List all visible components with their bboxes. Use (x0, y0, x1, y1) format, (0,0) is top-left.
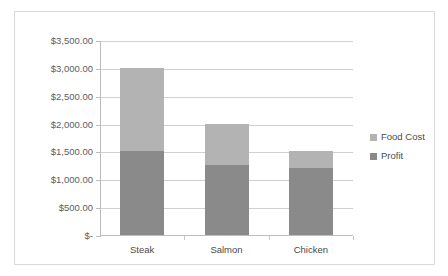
bar-segment-food-cost (289, 151, 333, 168)
bar-group (289, 151, 333, 235)
y-axis-tick (96, 180, 101, 181)
y-axis-tick-label: $- (85, 231, 93, 241)
bar-group (205, 124, 249, 235)
chart-legend: Food CostProfit (370, 132, 432, 170)
bar-segment-profit (289, 168, 333, 235)
legend-label: Food Cost (381, 132, 425, 142)
x-axis-tick (184, 236, 185, 240)
bar-segment-food-cost (120, 68, 164, 152)
y-axis-line (100, 41, 101, 236)
legend-item: Profit (370, 151, 432, 161)
y-axis-tick-label: $1,000.00 (51, 175, 93, 185)
bar-group (120, 68, 164, 235)
y-axis-tick-label: $500.00 (59, 203, 93, 213)
y-axis-tick-label: $3,500.00 (51, 36, 93, 46)
y-axis-tick (96, 125, 101, 126)
legend-item: Food Cost (370, 132, 432, 142)
legend-swatch-icon (370, 153, 377, 160)
y-axis-tick (96, 97, 101, 98)
bar-segment-food-cost (205, 124, 249, 166)
y-axis-tick-label: $1,500.00 (51, 147, 93, 157)
y-axis-tick-label: $2,500.00 (51, 92, 93, 102)
x-axis-category-label: Salmon (184, 244, 268, 256)
x-axis-category-label: Steak (100, 244, 184, 256)
x-axis-category-label: Chicken (269, 244, 353, 256)
y-axis-tick (96, 152, 101, 153)
y-axis-tick (96, 69, 101, 70)
gridline (100, 41, 353, 42)
y-axis-labels: $3,500.00$3,000.00$2,500.00$2,000.00$1,5… (15, 41, 93, 236)
y-axis-tick-label: $3,000.00 (51, 64, 93, 74)
y-axis-tick-label: $2,000.00 (51, 120, 93, 130)
x-axis-line (100, 235, 353, 236)
y-axis-tick (96, 208, 101, 209)
y-axis-tick (96, 41, 101, 42)
x-axis-labels: SteakSalmonChicken (100, 244, 353, 260)
legend-label: Profit (381, 151, 403, 161)
y-axis-tick (96, 236, 101, 237)
bar-segment-profit (120, 151, 164, 235)
x-axis-tick (353, 236, 354, 240)
x-axis-tick (269, 236, 270, 240)
bar-segment-profit (205, 165, 249, 235)
plot-area (100, 41, 353, 236)
chart-container: $3,500.00$3,000.00$2,500.00$2,000.00$1,5… (14, 11, 435, 265)
legend-swatch-icon (370, 134, 377, 141)
